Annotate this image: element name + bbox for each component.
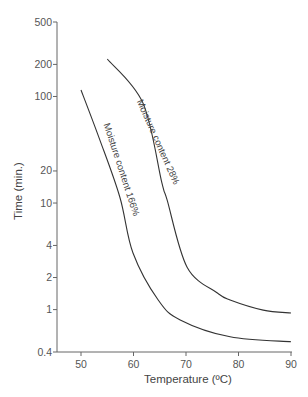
y-axis-title: Time (min.) <box>12 162 24 220</box>
y-tick-label: 10 <box>40 197 52 209</box>
y-tick-label: 2 <box>46 271 52 283</box>
x-tick-label: 70 <box>180 358 192 370</box>
x-tick-label: 80 <box>233 358 245 370</box>
axes <box>57 22 292 352</box>
curve-moisture-content-28 <box>107 59 291 313</box>
x-ticks: 5060708090 <box>75 352 297 370</box>
chart: 50020010020104210.4 5060708090 Temperatu… <box>0 0 308 397</box>
x-axis-title: Temperature (ºC) <box>144 373 232 385</box>
curves: Moisture content 166%Moisture content 28… <box>81 59 291 342</box>
y-tick-label: 200 <box>34 58 52 70</box>
y-tick-label: 1 <box>46 303 52 315</box>
curve-label-moisture-28: Moisture content 28% <box>135 98 183 187</box>
x-tick-label: 60 <box>128 358 140 370</box>
y-tick-label: 0.4 <box>37 346 52 358</box>
y-tick-label: 4 <box>46 239 52 251</box>
y-tick-label: 500 <box>34 16 52 28</box>
y-tick-label: 20 <box>40 164 52 176</box>
x-tick-label: 90 <box>285 358 297 370</box>
y-ticks: 50020010020104210.4 <box>34 16 57 358</box>
x-tick-label: 50 <box>75 358 87 370</box>
y-tick-label: 100 <box>34 90 52 102</box>
